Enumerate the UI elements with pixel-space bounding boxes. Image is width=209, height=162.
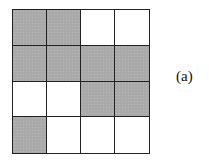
grid-cell-r3-c2-empty bbox=[81, 117, 115, 153]
grid-cell-r3-c3-empty bbox=[115, 117, 149, 153]
grid-cell-r1-c3-shaded bbox=[115, 46, 149, 82]
grid-cell-r0-c2-empty bbox=[81, 10, 115, 46]
figure-label: (a) bbox=[176, 68, 193, 85]
grid-cell-r2-c2-shaded bbox=[81, 82, 115, 118]
shaded-grid bbox=[12, 9, 150, 154]
grid-cell-r3-c1-empty bbox=[47, 117, 81, 153]
grid-cell-r0-c1-shaded bbox=[47, 10, 81, 46]
grid-cell-r1-c2-shaded bbox=[81, 46, 115, 82]
grid-cell-r1-c0-shaded bbox=[13, 46, 47, 82]
grid-cell-r0-c0-shaded bbox=[13, 10, 47, 46]
grid-cell-r0-c3-empty bbox=[115, 10, 149, 46]
grid-cell-r2-c3-shaded bbox=[115, 82, 149, 118]
grid-cell-r2-c1-empty bbox=[47, 82, 81, 118]
grid-cell-r3-c0-shaded bbox=[13, 117, 47, 153]
grid-cell-r1-c1-shaded bbox=[47, 46, 81, 82]
grid-cell-r2-c0-empty bbox=[13, 82, 47, 118]
